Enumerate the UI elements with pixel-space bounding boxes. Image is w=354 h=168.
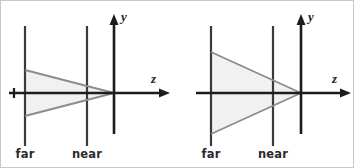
near-plane-label: near [258,147,288,161]
diagram-panel-wide-fov: y z far near [178,1,354,168]
y-axis-arrowhead [297,14,306,25]
y-axis-label: y [306,9,314,24]
far-plane-label: far [15,147,34,161]
near-plane-label: near [72,147,102,161]
far-plane-label: far [201,147,220,161]
frustum-svg-wide: y z [178,1,354,168]
frustum-svg-narrow: y z [1,1,178,168]
z-axis-label: z [150,71,157,86]
diagram-panel-narrow-fov: y z far near [1,1,178,168]
frustum-figure: y z far near y z [0,0,354,168]
y-axis-label: y [119,9,127,24]
z-axis-arrowhead [159,89,170,98]
z-axis-label: z [331,71,338,86]
y-axis-arrowhead [110,14,119,25]
z-axis-arrowhead [340,89,351,98]
